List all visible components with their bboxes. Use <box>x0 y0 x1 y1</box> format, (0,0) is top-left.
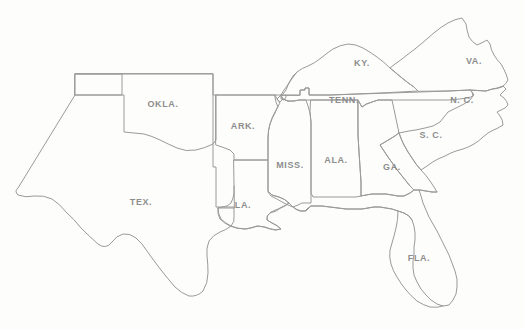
state-label-florida: FLA. <box>408 253 430 263</box>
map-labels: OKLA. ARK. TEX. LA. MISS. ALA. TENN. KY.… <box>0 0 524 329</box>
state-label-kentucky: KY. <box>354 58 370 68</box>
state-label-tennessee: TENN. <box>329 95 359 105</box>
state-label-georgia: GA. <box>383 162 401 172</box>
state-label-south-carolina: S. C. <box>419 130 442 140</box>
map-canvas: OKLA. ARK. TEX. LA. MISS. ALA. TENN. KY.… <box>0 0 524 329</box>
state-label-alabama: ALA. <box>324 155 347 165</box>
state-label-texas: TEX. <box>130 197 152 207</box>
state-label-louisiana: LA. <box>235 200 251 210</box>
state-label-virginia: VA. <box>466 56 482 66</box>
state-label-oklahoma: OKLA. <box>148 99 179 109</box>
state-label-north-carolina: N. C. <box>450 95 474 105</box>
state-label-arkansas: ARK. <box>231 121 255 131</box>
state-label-mississippi: MISS. <box>276 160 304 170</box>
